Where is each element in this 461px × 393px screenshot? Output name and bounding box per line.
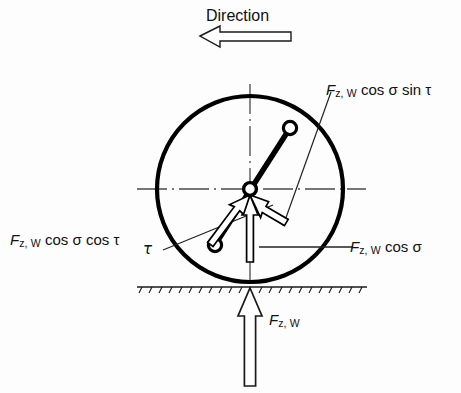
wheel-force-diagram: Direction Fz, Wcos σ sin τ Fz, Wcos σ co… xyxy=(0,0,461,393)
force-subscript: z, W xyxy=(335,87,357,99)
direction-arrow-icon xyxy=(200,26,291,47)
force-arrow-down-left xyxy=(208,195,250,247)
diagram-canvas xyxy=(0,0,461,393)
force-symbol: F xyxy=(350,238,359,255)
leader-line-cos-sigma-sin-tau xyxy=(283,92,331,226)
force-symbol: F xyxy=(10,231,19,248)
force-expression: cos σ xyxy=(385,238,422,255)
direction-label: Direction xyxy=(206,8,269,24)
tau-symbol: τ xyxy=(143,240,152,258)
label-force-cos-sigma-cos-tau: Fz, Wcos σ cos τ xyxy=(10,232,119,249)
axle-joint-upper xyxy=(283,121,296,134)
force-symbol: F xyxy=(326,81,335,98)
label-angle-tau: τ xyxy=(143,241,152,257)
wheel-hub xyxy=(244,183,257,196)
label-force-cos-sigma: Fz, Wcos σ xyxy=(350,239,422,256)
force-subscript: z, W xyxy=(359,244,381,256)
label-force-cos-sigma-sin-tau: Fz, Wcos σ sin τ xyxy=(326,82,431,99)
force-subscript: z, W xyxy=(278,317,300,329)
force-subscript: z, W xyxy=(19,237,41,249)
force-expression: cos σ cos τ xyxy=(45,231,119,248)
force-expression: cos σ sin τ xyxy=(361,81,431,98)
force-arrow-ground-reaction xyxy=(238,288,262,386)
label-force-fzw: Fz, W xyxy=(269,312,300,329)
force-symbol: F xyxy=(269,311,278,328)
